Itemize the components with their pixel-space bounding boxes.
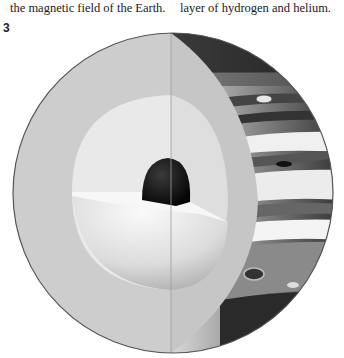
planet-cutaway-figure	[0, 0, 344, 358]
